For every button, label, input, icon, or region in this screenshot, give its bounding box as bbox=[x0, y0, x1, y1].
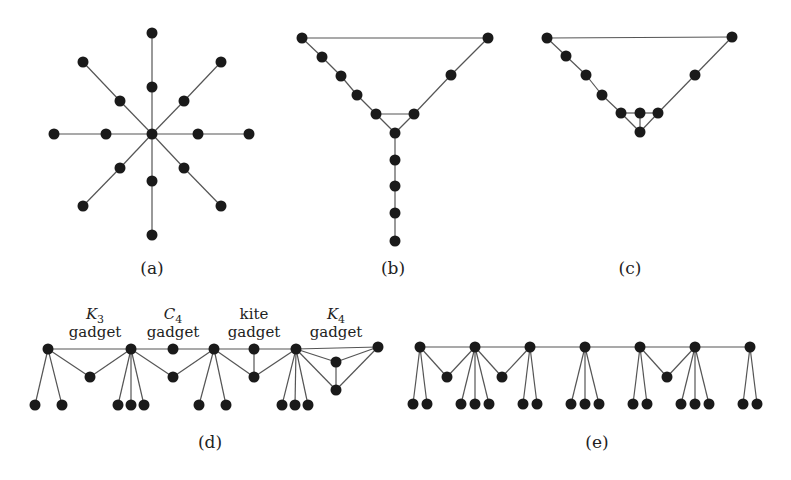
graph-node bbox=[277, 400, 288, 411]
graph-edge bbox=[695, 37, 732, 75]
subfigure-b-cycle-triangle-tail: (b) bbox=[297, 33, 494, 279]
graph-node bbox=[542, 33, 553, 44]
graph-edge bbox=[336, 347, 378, 390]
graph-edge bbox=[750, 347, 757, 404]
subfigure-label-d: (d) bbox=[198, 432, 222, 452]
graph-node bbox=[336, 71, 347, 82]
graph-node bbox=[57, 400, 68, 411]
gadget-name: kite bbox=[240, 305, 269, 323]
graph-node bbox=[470, 399, 481, 410]
graph-node bbox=[532, 399, 543, 410]
graph-node bbox=[297, 33, 308, 44]
graph-node bbox=[676, 399, 687, 410]
graph-node bbox=[525, 342, 536, 353]
graph-node bbox=[371, 109, 382, 120]
graph-edge bbox=[743, 347, 750, 404]
graph-edge bbox=[131, 349, 173, 377]
subfigure-label-b: (b) bbox=[381, 258, 405, 278]
graph-node bbox=[290, 400, 301, 411]
graph-node bbox=[580, 342, 591, 353]
graph-edge bbox=[152, 101, 184, 134]
graph-node bbox=[101, 129, 112, 140]
graph-edge bbox=[414, 75, 451, 114]
graph-edge bbox=[296, 347, 378, 349]
subfigure-a-spider-graph: (a) bbox=[49, 28, 255, 279]
graph-node bbox=[442, 372, 453, 383]
graph-node bbox=[43, 344, 54, 355]
graph-node bbox=[483, 33, 494, 44]
graph-node bbox=[616, 108, 627, 119]
graph-node bbox=[331, 357, 342, 368]
graph-node bbox=[147, 82, 158, 93]
graph-node bbox=[662, 372, 673, 383]
graph-node bbox=[635, 342, 646, 353]
graph-node bbox=[745, 342, 756, 353]
graph-node bbox=[497, 372, 508, 383]
graph-node bbox=[85, 372, 96, 383]
graph-node bbox=[244, 129, 255, 140]
graph-edge bbox=[296, 349, 308, 405]
graph-edge bbox=[83, 62, 120, 101]
graph-node bbox=[126, 344, 137, 355]
graph-edge bbox=[547, 37, 732, 38]
subfigure-label-c: (c) bbox=[619, 258, 642, 278]
graph-node bbox=[303, 400, 314, 411]
graph-node bbox=[168, 372, 179, 383]
graph-node bbox=[470, 342, 481, 353]
gadget-caption: gadget bbox=[228, 323, 281, 341]
graph-node bbox=[518, 399, 529, 410]
subfigure-label-e: (e) bbox=[585, 432, 608, 452]
graph-node bbox=[147, 176, 158, 187]
graph-node bbox=[690, 399, 701, 410]
graph-node bbox=[561, 51, 572, 62]
graph-edge bbox=[120, 101, 152, 134]
graph-node bbox=[415, 342, 426, 353]
graph-edge bbox=[585, 347, 599, 404]
graph-edge bbox=[658, 75, 695, 113]
graph-edge bbox=[640, 347, 647, 404]
graph-node bbox=[331, 385, 342, 396]
graph-node bbox=[390, 155, 401, 166]
graph-node bbox=[209, 344, 220, 355]
subfigure-d-gadget-path: K3gadgetC4gadgetkitegadgetK4gadget (d) bbox=[30, 305, 384, 452]
graph-edge bbox=[420, 347, 427, 404]
graph-edge bbox=[695, 347, 709, 404]
graph-node bbox=[147, 28, 158, 39]
graph-node bbox=[179, 96, 190, 107]
graph-node bbox=[179, 163, 190, 174]
graph-node bbox=[194, 400, 205, 411]
graph-node bbox=[249, 372, 260, 383]
graph-node bbox=[291, 344, 302, 355]
graph-node bbox=[635, 108, 646, 119]
graph-node bbox=[390, 181, 401, 192]
graph-node bbox=[690, 342, 701, 353]
graph-edge bbox=[35, 349, 48, 405]
graph-edge bbox=[523, 347, 530, 404]
graph-node bbox=[249, 344, 260, 355]
graph-edge bbox=[640, 347, 667, 377]
graph-edge bbox=[451, 38, 488, 75]
graph-node bbox=[78, 57, 89, 68]
graph-node bbox=[352, 90, 363, 101]
graph-node bbox=[115, 163, 126, 174]
graph-node bbox=[390, 128, 401, 139]
graph-edge bbox=[152, 134, 184, 168]
graph-edge bbox=[461, 347, 475, 404]
graph-edge bbox=[184, 168, 221, 206]
graph-node bbox=[216, 201, 227, 212]
graph-node bbox=[221, 400, 232, 411]
graph-node bbox=[147, 230, 158, 241]
graph-node bbox=[409, 109, 420, 120]
graph-edge bbox=[571, 347, 585, 404]
edges bbox=[413, 347, 757, 404]
graph-node bbox=[690, 70, 701, 81]
graph-edge bbox=[633, 347, 640, 404]
graph-node bbox=[594, 399, 605, 410]
graph-node bbox=[752, 399, 763, 410]
graph-node bbox=[373, 342, 384, 353]
graph-node bbox=[193, 129, 204, 140]
graph-edge bbox=[131, 349, 144, 405]
graph-node bbox=[642, 399, 653, 410]
graph-node bbox=[139, 400, 150, 411]
gadget-caption: gadget bbox=[147, 323, 200, 341]
